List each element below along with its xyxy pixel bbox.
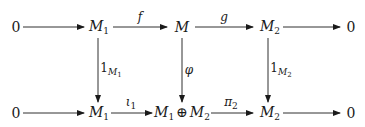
node-top-M: M — [175, 20, 189, 34]
node-label-right: M — [190, 104, 204, 120]
node-subscript: 2 — [274, 112, 280, 122]
label-g: g — [220, 11, 228, 23]
node-label-left: M — [154, 104, 168, 120]
node-bottom-direct-sum: M1⊕M2 — [154, 105, 210, 122]
arrow-label-subsub: 2 — [287, 71, 291, 79]
node-top-M2: M2 — [260, 19, 280, 36]
node-label: M — [89, 18, 103, 34]
arrow-label: g — [220, 10, 228, 24]
arrow-label-subsub: 1 — [117, 71, 121, 79]
node-label: 0 — [347, 105, 356, 121]
node-label: M — [260, 104, 274, 120]
node-bottom-M2: M2 — [260, 105, 280, 122]
node-top-zero-left: 0 — [12, 20, 21, 34]
node-label: M — [175, 19, 189, 35]
label-f: f — [138, 11, 142, 23]
arrow-label: f — [138, 10, 142, 24]
label-pi2: π2 — [224, 96, 238, 111]
arrow-label: 1 — [270, 61, 278, 75]
node-label: 0 — [12, 105, 21, 121]
arrow-label: π — [224, 95, 232, 109]
node-bottom-zero-right: 0 — [347, 106, 356, 120]
node-label: M — [260, 18, 274, 34]
node-subscript: 1 — [103, 26, 109, 36]
label-1M1: 1M1 — [100, 62, 121, 79]
arrow-label-sub: M — [108, 67, 117, 77]
arrow-label-sub: 2 — [232, 101, 238, 111]
node-top-zero-right: 0 — [347, 20, 356, 34]
node-top-M1: M1 — [89, 19, 109, 36]
arrow-label-sub: M — [278, 67, 287, 77]
node-label: 0 — [347, 19, 356, 35]
arrow-label: φ — [185, 63, 193, 77]
label-phi: φ — [185, 64, 193, 76]
arrow-label-sub: 1 — [130, 101, 136, 111]
node-subscript: 2 — [274, 26, 280, 36]
node-bottom-zero-left: 0 — [12, 106, 21, 120]
direct-sum-operator: ⊕ — [174, 104, 190, 120]
node-subscript-right: 2 — [204, 112, 210, 122]
label-1M2: 1M2 — [270, 62, 291, 79]
arrow-label: 1 — [100, 61, 108, 75]
label-iota1: ι1 — [126, 96, 136, 111]
node-label: M — [89, 104, 103, 120]
node-subscript: 1 — [103, 112, 109, 122]
node-bottom-M1: M1 — [89, 105, 109, 122]
node-label: 0 — [12, 19, 21, 35]
